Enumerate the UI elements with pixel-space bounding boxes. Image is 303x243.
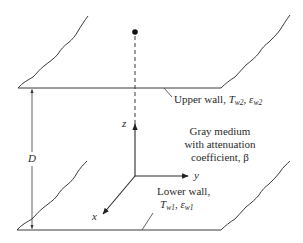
medium-description: Gray medium with attenuation coefficient… xyxy=(181,125,259,164)
lower-wall-temp-sub: w1 xyxy=(166,203,175,212)
lower-wall xyxy=(17,161,290,230)
upper-wall-right-broken-edge xyxy=(221,15,290,88)
medium-line-3: coefficient, β xyxy=(181,151,259,164)
upper-wall-label: Upper wall, Tw2, εw2 xyxy=(174,93,262,109)
lower-wall-right-broken-edge xyxy=(221,161,290,230)
point-marker xyxy=(132,29,138,35)
y-axis-label: y xyxy=(194,169,199,182)
medium-line-1: Gray medium xyxy=(181,125,259,138)
upper-wall-left-broken-edge xyxy=(18,16,88,88)
upper-wall-text: Upper wall, xyxy=(174,93,226,105)
lower-wall-text: Lower wall, xyxy=(157,185,210,198)
upper-wall xyxy=(18,15,290,88)
upper-wall-emis-sub: w2 xyxy=(253,98,262,107)
upper-wall-leader-line xyxy=(164,88,172,97)
dimension-d-label: D xyxy=(27,152,37,165)
lower-wall-leader-line xyxy=(142,213,153,230)
z-axis-label: z xyxy=(122,117,126,130)
lower-wall-emis-sub: w1 xyxy=(185,203,194,212)
parallel-plates-diagram xyxy=(0,0,303,243)
medium-line-2: with attenuation xyxy=(181,138,259,151)
x-axis xyxy=(103,176,135,214)
lower-wall-label: Lower wall, Tw1, εw1 xyxy=(157,185,210,214)
x-axis-label: x xyxy=(92,210,97,223)
upper-wall-temp-sub: w2 xyxy=(235,98,244,107)
lower-wall-left-broken-edge xyxy=(17,161,87,230)
